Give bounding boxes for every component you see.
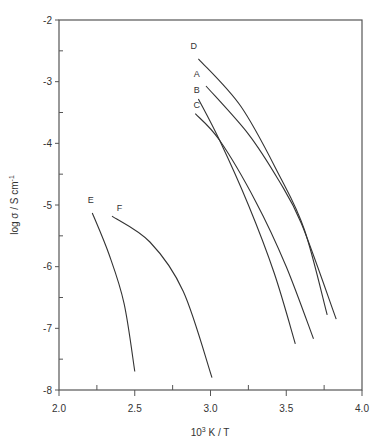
series-layer: DABCEF — [88, 41, 336, 378]
plot-border — [59, 20, 362, 390]
x-axis: 2.02.53.03.54.0 — [52, 385, 369, 414]
x-axis-title: 103 K / T — [191, 426, 230, 438]
y-axis-title: log σ / S cm-1 — [8, 175, 20, 235]
y-tick-label: -8 — [43, 385, 52, 396]
series-curve-b — [198, 99, 295, 344]
series-curve-f — [112, 216, 212, 378]
conductivity-chart: -2-3-4-5-6-7-8 2.02.53.03.54.0 DABCEF 10… — [0, 0, 382, 446]
series-curve-c — [195, 114, 313, 339]
x-tick-label: 4.0 — [355, 403, 369, 414]
series-label-f: F — [117, 203, 123, 213]
x-tick-label: 3.5 — [279, 403, 293, 414]
x-tick-label: 3.0 — [204, 403, 218, 414]
y-tick-label: -6 — [43, 261, 52, 272]
y-tick-label: -3 — [43, 76, 52, 87]
series-label-c: C — [194, 100, 201, 110]
series-curve-d — [198, 59, 327, 315]
plot-frame — [59, 20, 362, 390]
x-tick-label: 2.5 — [128, 403, 142, 414]
series-curve-a — [206, 86, 336, 319]
series-label-e: E — [88, 195, 94, 205]
y-tick-label: -5 — [43, 200, 52, 211]
x-tick-label: 2.0 — [52, 403, 66, 414]
series-label-d: D — [191, 41, 198, 51]
y-tick-label: -2 — [43, 15, 52, 26]
y-axis: -2-3-4-5-6-7-8 — [43, 15, 63, 396]
series-label-a: A — [194, 69, 200, 79]
y-tick-label: -7 — [43, 323, 52, 334]
y-tick-label: -4 — [43, 138, 52, 149]
series-label-b: B — [194, 85, 200, 95]
series-curve-e — [92, 213, 135, 372]
